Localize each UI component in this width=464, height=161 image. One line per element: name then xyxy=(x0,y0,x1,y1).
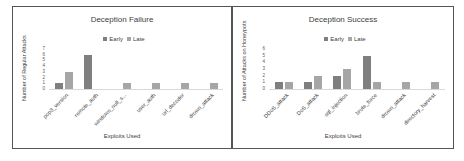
bar-late xyxy=(152,83,160,89)
y-tick: 1 xyxy=(37,80,45,85)
y-axis-label: Number of Regular Attacks xyxy=(21,35,27,101)
plot-area xyxy=(49,49,223,90)
bar-early xyxy=(333,76,341,89)
legend-label: Early xyxy=(109,36,123,42)
bar-late xyxy=(65,72,73,89)
bar-late xyxy=(285,82,293,89)
x-tick-label: drown_attack xyxy=(187,92,214,119)
y-tick: 6 xyxy=(37,52,45,57)
y-tick: 4 xyxy=(257,59,265,64)
legend-label: Early xyxy=(330,36,344,42)
x-axis-label: Exploits Used xyxy=(13,133,231,139)
bar-early xyxy=(84,55,92,89)
y-tick: 4 xyxy=(37,63,45,68)
legend-swatch xyxy=(127,37,131,41)
bar-late xyxy=(210,83,218,89)
y-tick: 1 xyxy=(257,79,265,84)
y-tick: 0 xyxy=(257,86,265,91)
legend-swatch xyxy=(103,37,107,41)
y-tick: 7 xyxy=(37,46,45,51)
bar-early xyxy=(275,82,283,89)
legend-label: Late xyxy=(133,36,145,42)
chart-deception-success: Deception SuccessEarlyLateNumber of Atta… xyxy=(232,6,454,149)
x-tick-label: DoS_attack xyxy=(295,92,319,116)
y-tick: 5 xyxy=(257,53,265,58)
x-tick-label: directory_harvest xyxy=(403,92,437,126)
plot-area xyxy=(269,49,445,90)
chart-title: Deception Success xyxy=(233,15,453,24)
y-tick: 3 xyxy=(257,66,265,71)
y-axis-label: Number of Attacks on Honeypots xyxy=(241,21,247,101)
legend-swatch xyxy=(348,37,352,41)
legend-label: Late xyxy=(354,36,366,42)
legend-swatch xyxy=(324,37,328,41)
y-tick: 2 xyxy=(257,73,265,78)
x-tick-label: sql_injection xyxy=(323,92,349,118)
y-tick: 2 xyxy=(37,75,45,80)
bar-late xyxy=(402,82,410,89)
y-tick: 3 xyxy=(37,69,45,74)
bar-late xyxy=(314,76,322,89)
bar-late xyxy=(123,83,131,89)
chart-title: Deception Failure xyxy=(13,15,231,24)
bar-late xyxy=(373,82,381,89)
x-tick-label: drown_attack xyxy=(380,92,407,119)
y-tick: 0 xyxy=(37,86,45,91)
x-tick-label: DDoS_attack xyxy=(263,92,290,119)
bar-late xyxy=(181,83,189,89)
x-tick-label: windows_null_s... xyxy=(93,92,128,127)
bar-late xyxy=(431,82,439,89)
x-axis-label: Exploits Used xyxy=(233,133,453,139)
x-tick-label: remote_auth xyxy=(73,92,99,118)
y-tick: 6 xyxy=(257,46,265,51)
y-tick: 5 xyxy=(37,57,45,62)
x-tick-label: user_auth xyxy=(135,92,157,114)
x-tick-label: url_decoder xyxy=(161,92,186,117)
x-tick-label: pop3_version xyxy=(42,92,70,120)
bar-early xyxy=(55,83,63,89)
bar-late xyxy=(343,69,351,89)
x-tick-label: brute_force xyxy=(354,92,378,116)
chart-deception-failure: Deception FailureEarlyLateNumber of Regu… xyxy=(12,6,232,149)
bar-early xyxy=(304,82,312,89)
bar-early xyxy=(363,56,371,89)
legend: EarlyLate xyxy=(233,36,453,42)
legend: EarlyLate xyxy=(13,36,231,42)
